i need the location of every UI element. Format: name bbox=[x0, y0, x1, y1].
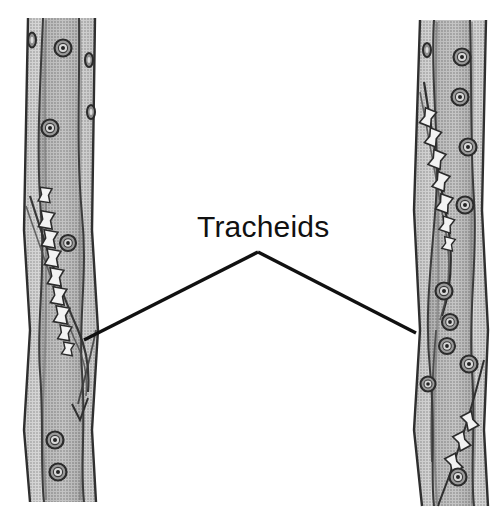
bordered-pit bbox=[55, 40, 72, 57]
tracheids-figure: Tracheids bbox=[0, 0, 499, 520]
bordered-pit bbox=[439, 338, 455, 354]
bordered-pit bbox=[450, 469, 467, 486]
bordered-pit bbox=[436, 283, 453, 300]
bordered-pit bbox=[461, 356, 478, 373]
bordered-pit bbox=[60, 235, 76, 251]
bordered-pit-edge bbox=[423, 43, 431, 57]
bordered-pit bbox=[50, 464, 67, 481]
bordered-pit bbox=[442, 314, 458, 330]
bordered-pit bbox=[42, 120, 59, 137]
bordered-pit bbox=[454, 49, 471, 66]
bordered-pit bbox=[460, 139, 477, 156]
bordered-pit bbox=[47, 432, 64, 449]
illustration-canvas: Tracheids bbox=[0, 0, 499, 520]
bordered-pit-edge bbox=[28, 33, 36, 48]
bordered-pit bbox=[457, 197, 474, 214]
bordered-pit bbox=[452, 89, 469, 106]
bordered-pit-edge bbox=[85, 53, 93, 67]
tracheids-label: Tracheids bbox=[197, 210, 329, 243]
bordered-pit bbox=[421, 377, 436, 392]
bordered-pit-edge bbox=[87, 105, 95, 119]
right-tracheid bbox=[408, 12, 498, 514]
